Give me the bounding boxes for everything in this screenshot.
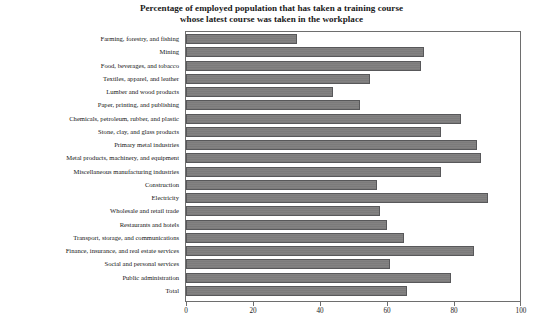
x-tick-label: 40 bbox=[316, 307, 323, 316]
chart-title-line-1: Percentage of employed population that h… bbox=[0, 3, 543, 14]
x-tick bbox=[520, 302, 521, 306]
category-label: Metal products, machinery, and equipment bbox=[0, 154, 182, 162]
category-label: Chemicals, petroleum, rubber, and plasti… bbox=[0, 115, 182, 123]
x-tick bbox=[253, 302, 254, 306]
bar-3 bbox=[186, 61, 421, 71]
category-label: Total bbox=[0, 287, 182, 295]
bar-fill bbox=[186, 206, 380, 216]
bars-layer bbox=[186, 32, 521, 301]
bar-15 bbox=[186, 220, 387, 230]
bar-10 bbox=[186, 153, 481, 163]
x-tick bbox=[454, 302, 455, 306]
bar-fill bbox=[186, 61, 421, 71]
bar-fill bbox=[186, 259, 390, 269]
x-tick-label: 20 bbox=[249, 307, 256, 316]
bar-9 bbox=[186, 140, 477, 150]
category-label: Stone, clay, and glass products bbox=[0, 128, 182, 136]
bar-17 bbox=[186, 246, 474, 256]
category-label: Food, beverages, and tobacco bbox=[0, 62, 182, 70]
category-label: Restaurants and hotels bbox=[0, 221, 182, 229]
category-label: Finance, insurance, and real estate serv… bbox=[0, 247, 182, 255]
category-label: Wholesale and retail trade bbox=[0, 207, 182, 215]
bar-fill bbox=[186, 220, 387, 230]
category-label: Mining bbox=[0, 48, 182, 56]
category-label: Lumber and wood products bbox=[0, 88, 182, 96]
chart-title-line-2: whose latest course was taken in the wor… bbox=[0, 14, 543, 25]
category-label: Paper, printing, and publishing bbox=[0, 101, 182, 109]
x-tick-label: 100 bbox=[516, 307, 527, 316]
category-label: Construction bbox=[0, 181, 182, 189]
bar-20 bbox=[186, 286, 407, 296]
bar-6 bbox=[186, 100, 360, 110]
bar-11 bbox=[186, 167, 441, 177]
bar-2 bbox=[186, 47, 424, 57]
x-tick bbox=[186, 302, 187, 306]
bar-fill bbox=[186, 273, 451, 283]
category-label: Textiles, apparel, and leather bbox=[0, 75, 182, 83]
bar-16 bbox=[186, 233, 404, 243]
bar-5 bbox=[186, 87, 333, 97]
category-label: Farming, forestry, and fishing bbox=[0, 35, 182, 43]
bar-fill bbox=[186, 153, 481, 163]
bar-fill bbox=[186, 127, 441, 137]
bar-fill bbox=[186, 180, 377, 190]
bar-fill bbox=[186, 193, 488, 203]
x-tick-label: 80 bbox=[450, 307, 457, 316]
value-axis: 020406080100 bbox=[186, 302, 521, 324]
bar-1 bbox=[186, 34, 297, 44]
x-tick bbox=[320, 302, 321, 306]
category-label: Primary metal industries bbox=[0, 141, 182, 149]
bar-19 bbox=[186, 273, 451, 283]
bar-13 bbox=[186, 193, 488, 203]
chart-title: Percentage of employed population that h… bbox=[0, 3, 543, 25]
bar-fill bbox=[186, 74, 370, 84]
x-tick-label: 0 bbox=[184, 307, 188, 316]
bar-12 bbox=[186, 180, 377, 190]
category-axis-labels: Farming, forestry, and fishingMiningFood… bbox=[0, 32, 182, 301]
bar-fill bbox=[186, 87, 333, 97]
bar-fill bbox=[186, 286, 407, 296]
category-label: Electricity bbox=[0, 194, 182, 202]
bar-8 bbox=[186, 127, 441, 137]
bar-fill bbox=[186, 140, 477, 150]
bar-fill bbox=[186, 47, 424, 57]
category-label: Transport, storage, and communications bbox=[0, 234, 182, 242]
category-label: Social and personal services bbox=[0, 260, 182, 268]
category-label: Miscellaneous manufacturing industries bbox=[0, 168, 182, 176]
bar-fill bbox=[186, 34, 297, 44]
bar-14 bbox=[186, 206, 380, 216]
x-tick bbox=[387, 302, 388, 306]
bar-18 bbox=[186, 259, 390, 269]
bar-fill bbox=[186, 100, 360, 110]
category-label: Public administration bbox=[0, 274, 182, 282]
x-tick-label: 60 bbox=[383, 307, 390, 316]
bar-fill bbox=[186, 246, 474, 256]
bar-fill bbox=[186, 233, 404, 243]
bar-chart: Percentage of employed population that h… bbox=[0, 0, 543, 333]
bar-fill bbox=[186, 114, 461, 124]
bar-fill bbox=[186, 167, 441, 177]
bar-4 bbox=[186, 74, 370, 84]
bar-7 bbox=[186, 114, 461, 124]
